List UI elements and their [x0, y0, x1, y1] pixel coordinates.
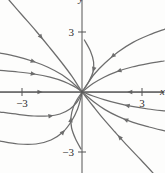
x-axis-tick-label: −3 [16, 97, 28, 109]
x-axis-label: x [159, 85, 165, 97]
y-axis-label: y [78, 0, 84, 4]
x-axis-tick-label: 3 [139, 97, 145, 109]
y-axis-tick-label: 3 [69, 26, 75, 38]
phase-portrait-canvas: −333−3xy [0, 0, 165, 173]
phase-portrait-figure: −333−3xy [0, 0, 165, 173]
y-axis-tick-label: −3 [62, 146, 74, 158]
